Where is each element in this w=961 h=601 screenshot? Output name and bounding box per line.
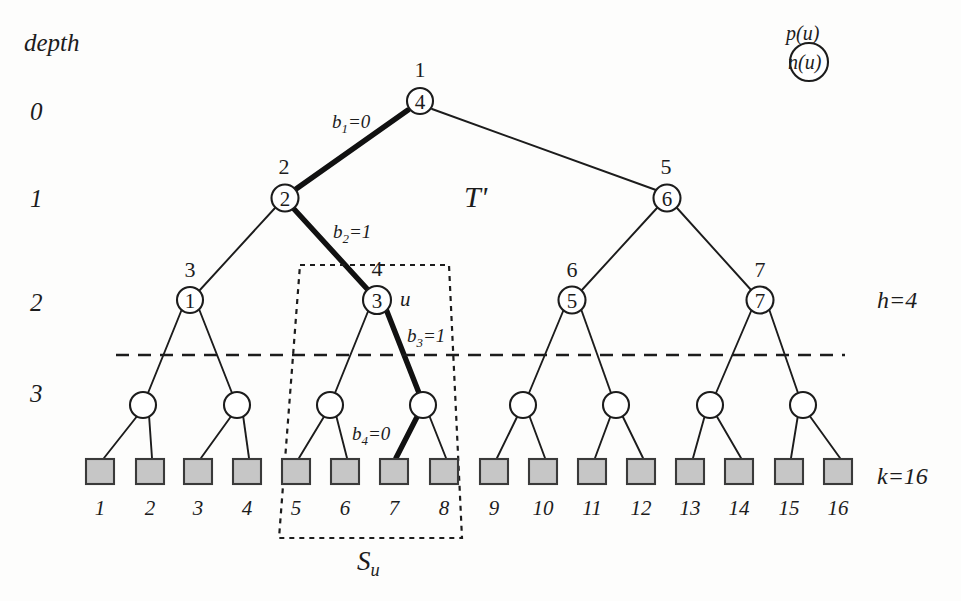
leaf-square-7 <box>380 459 408 484</box>
depth-level-2: 2 <box>30 290 43 315</box>
edge-d3c-leaf6 <box>336 415 347 458</box>
bit-label-b1-value: =0 <box>348 111 370 132</box>
edge-d3d-leaf8 <box>429 415 446 458</box>
bit-label-b2: b2=1 <box>333 222 371 246</box>
leaf-square-1 <box>86 459 114 484</box>
depth-level-3: 3 <box>30 381 43 406</box>
bit-label-b3-name: b <box>407 325 417 346</box>
node-p-d2c: 6 <box>567 259 578 281</box>
leaf-number-13: 13 <box>680 498 701 519</box>
tree-edges <box>104 109 840 458</box>
bit-label-b1-name: b <box>332 111 342 132</box>
legend-n-of-u: n(u) <box>788 52 821 72</box>
edge-d2c-d3e <box>529 309 564 393</box>
edge-d3h-leaf16 <box>809 415 840 458</box>
node-n-d2a: 1 <box>185 291 196 312</box>
edge-root-right <box>432 109 656 190</box>
leaf-square-5 <box>282 459 310 484</box>
node-n-d2d: 7 <box>755 291 766 312</box>
node-u-label: u <box>400 289 411 310</box>
node-circle-d3h <box>790 392 816 418</box>
leaf-square-12 <box>627 459 655 484</box>
node-p-d1r: 5 <box>661 156 672 178</box>
tree-name-label: T' <box>464 182 487 212</box>
leaf-square-9 <box>480 459 508 484</box>
leaf-square-6 <box>331 459 359 484</box>
edge-d3e-leaf10 <box>529 415 545 458</box>
depth3-node-circles <box>130 392 816 418</box>
node-p-d2d: 7 <box>755 259 766 281</box>
leaf-number-1: 1 <box>95 498 106 519</box>
bit-label-b4-value: =0 <box>368 423 390 444</box>
leaf-number-12: 12 <box>631 498 652 519</box>
highlighted-path <box>294 110 419 458</box>
edge-d2a-d3b <box>199 309 232 393</box>
edge-d3a-leaf2 <box>149 415 152 458</box>
edge-d3g-leaf14 <box>716 415 741 458</box>
edge-d3f-leaf11 <box>595 415 611 458</box>
leaf-square-13 <box>676 459 704 484</box>
legend-p-of-u: p(u) <box>786 23 819 43</box>
edge-d1r-d2d <box>677 208 752 291</box>
leaf-number-15: 15 <box>779 498 800 519</box>
node-p-d1l: 2 <box>279 156 290 178</box>
leaf-number-14: 14 <box>729 498 750 519</box>
depth-level-1: 1 <box>30 186 43 211</box>
edge-d2a-d3a <box>148 309 182 393</box>
leaf-square-11 <box>578 459 606 484</box>
leaf-square-14 <box>725 459 753 484</box>
leaf-number-11: 11 <box>582 498 601 519</box>
edge-d3e-leaf9 <box>497 415 518 458</box>
edge-d3c-leaf5 <box>299 415 325 458</box>
node-circle-d3f <box>603 392 629 418</box>
depth-axis-title: depth <box>24 30 80 55</box>
leaf-square-8 <box>430 459 458 484</box>
edge-d2b-d3c <box>335 309 369 393</box>
bit-label-b2-name: b <box>333 221 343 242</box>
bit-label-b3: b3=1 <box>407 326 445 350</box>
leaf-number-2: 2 <box>145 498 156 519</box>
node-n-root: 4 <box>415 92 426 113</box>
edge-d3f-leaf12 <box>622 415 643 458</box>
bit-label-b4: b4=0 <box>352 424 390 448</box>
tree-figure: depth 0 1 2 3 T' h=4 k=16 p(u) n(u) b1=0… <box>0 0 961 601</box>
leaf-square-2 <box>136 459 164 484</box>
leaf-square-15 <box>775 459 803 484</box>
edge-d3h-leaf15 <box>791 415 798 458</box>
leaf-number-10: 10 <box>533 498 554 519</box>
subtree-su-letter: S <box>357 546 371 576</box>
leaf-number-8: 8 <box>439 498 450 519</box>
leafcount-label: k=16 <box>877 464 928 488</box>
depth-level-0: 0 <box>30 99 43 124</box>
leaf-square-10 <box>529 459 557 484</box>
leaf-number-6: 6 <box>340 498 351 519</box>
leaf-number-9: 9 <box>489 498 500 519</box>
edge-d1r-d2c <box>581 208 657 291</box>
bit-label-b1: b1=0 <box>332 112 370 136</box>
subtree-su-label: Su <box>357 548 380 580</box>
node-p-d2a: 3 <box>185 259 196 281</box>
edge-d2d-d3h <box>769 309 798 393</box>
leaf-squares <box>86 459 852 484</box>
bit-label-b3-value: =1 <box>423 325 445 346</box>
leaf-square-4 <box>233 459 261 484</box>
height-label: h=4 <box>877 288 917 312</box>
edge-d2c-d3f <box>581 309 611 393</box>
path-edge-b3 <box>386 309 419 393</box>
leaf-number-4: 4 <box>242 498 253 519</box>
node-n-d2c: 5 <box>567 291 578 312</box>
edge-d3a-leaf1 <box>104 415 138 458</box>
leaf-square-3 <box>184 459 212 484</box>
bit-label-b2-value: =1 <box>349 221 371 242</box>
edge-d1l-d2a <box>199 208 275 291</box>
leaf-square-16 <box>824 459 852 484</box>
node-n-d1l: 2 <box>280 189 291 210</box>
leaf-number-5: 5 <box>291 498 302 519</box>
node-p-d2b: 4 <box>372 258 383 280</box>
edge-d3g-leaf13 <box>693 415 705 458</box>
node-circle-d3a <box>130 392 156 418</box>
leaf-number-3: 3 <box>193 498 204 519</box>
leaf-number-7: 7 <box>389 498 400 519</box>
subtree-su-subscript: u <box>371 560 380 580</box>
node-circle-d3b <box>224 392 250 418</box>
